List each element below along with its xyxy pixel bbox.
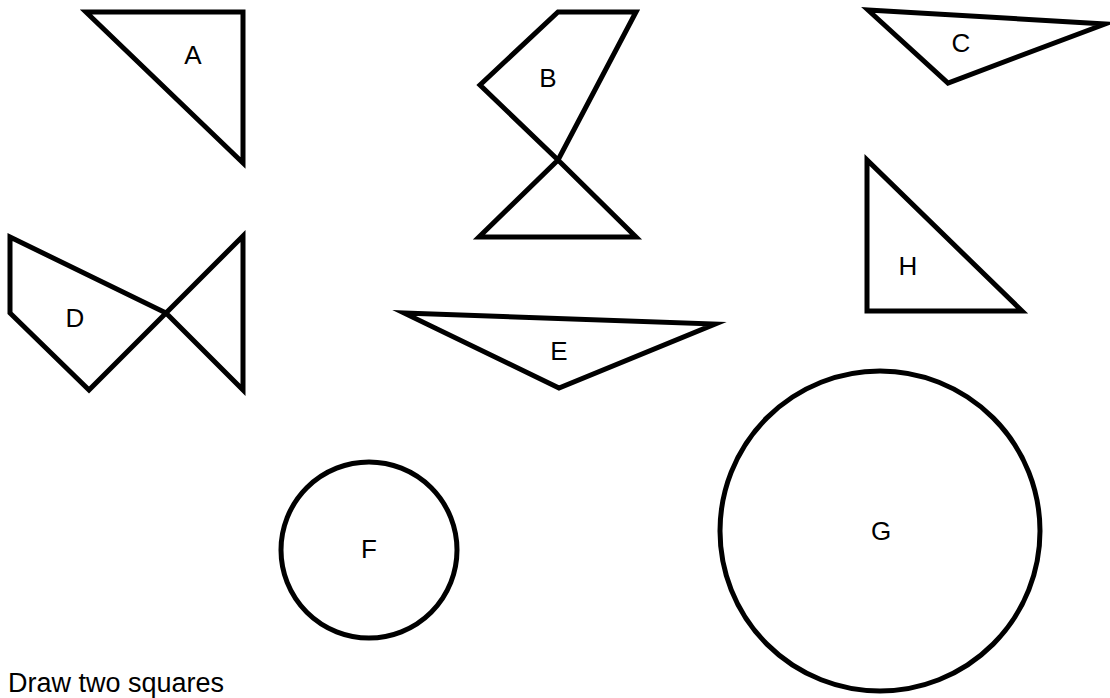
shape-g-label: G [871,516,891,546]
shape-h-label: H [899,251,918,281]
shape-a-label: A [184,40,202,70]
shape-c-label: C [952,28,971,58]
shape-b-label: B [539,63,556,93]
shape-e-label: E [550,336,567,366]
instruction-text: Draw two squares [8,670,224,697]
shape-d-label: D [66,303,85,333]
shape-f-label: F [361,534,377,564]
